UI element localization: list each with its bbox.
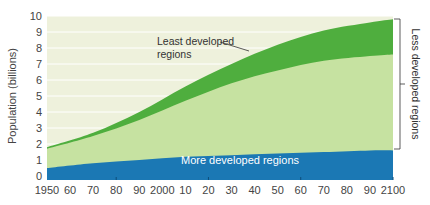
y-tick-label: 3 [36, 122, 42, 134]
x-tick-label: 60 [295, 184, 307, 196]
y-tick-label: 4 [36, 106, 42, 118]
less-developed-bracket-label: Less developed regions [410, 29, 422, 140]
x-tick-label: 60 [64, 184, 76, 196]
least-developed-label-line2: regions [157, 48, 191, 60]
x-tick-label: 1950 [35, 184, 59, 196]
x-tick-label: 70 [87, 184, 99, 196]
y-tick-label: 9 [36, 26, 42, 38]
y-axis-label: Population (billions) [6, 48, 18, 144]
y-tick-label: 2 [36, 138, 42, 150]
least-developed-label-line1: Least developed [157, 35, 234, 47]
y-axis-ticks: 012345678910 [30, 10, 42, 182]
y-tick-label: 0 [36, 170, 42, 182]
x-tick-label: 30 [225, 184, 237, 196]
y-tick-label: 10 [30, 10, 42, 22]
more-developed-label: More developed regions [181, 154, 300, 166]
x-tick-label: 2100 [381, 184, 405, 196]
x-tick-label: 80 [110, 184, 122, 196]
population-area-chart: 19506070809020001020304050607080902100 0… [0, 0, 430, 205]
less-developed-bracket [394, 19, 405, 149]
x-tick-label: 90 [364, 184, 376, 196]
x-tick-label: 90 [133, 184, 145, 196]
x-tick-label: 70 [318, 184, 330, 196]
y-tick-label: 6 [36, 74, 42, 86]
y-tick-label: 7 [36, 58, 42, 70]
x-tick-label: 10 [179, 184, 191, 196]
x-tick-label: 80 [341, 184, 353, 196]
y-tick-label: 5 [36, 90, 42, 102]
x-tick-label: 2000 [150, 184, 174, 196]
y-tick-label: 1 [36, 154, 42, 166]
y-tick-label: 8 [36, 42, 42, 54]
x-tick-label: 20 [202, 184, 214, 196]
x-tick-label: 50 [272, 184, 284, 196]
x-tick-label: 40 [248, 184, 260, 196]
